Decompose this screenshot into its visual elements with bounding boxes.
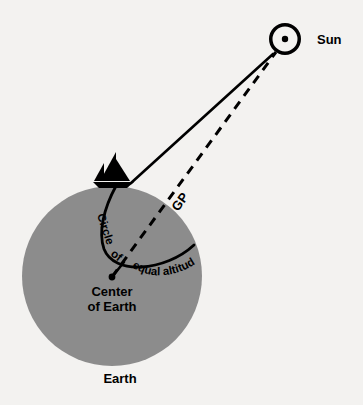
sailboat-jib — [94, 163, 104, 181]
diagram-canvas: Sun GP Circle of equal altitude Center o… — [0, 0, 363, 405]
sailboat-hull — [93, 182, 134, 188]
earth-label: Earth — [103, 371, 136, 386]
sailboat-boom — [116, 159, 130, 181]
sun-center-dot-icon — [282, 36, 288, 42]
sun-label: Sun — [317, 32, 342, 47]
center-of-earth-label-line2: of Earth — [87, 299, 136, 314]
sight-line-boat-to-sun — [131, 54, 273, 183]
diagram-svg: Sun GP Circle of equal altitude Center o… — [0, 0, 363, 405]
earth-center-dot — [109, 274, 116, 281]
sailboat — [93, 152, 134, 188]
center-of-earth-label-line1: Center — [91, 284, 132, 299]
sun-symbol — [271, 25, 300, 54]
